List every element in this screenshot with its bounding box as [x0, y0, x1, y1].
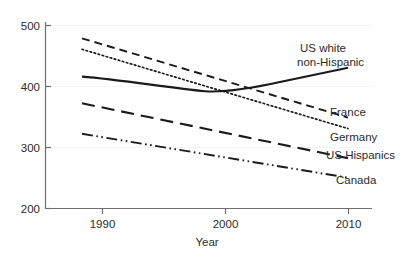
chart-figure: 500 400 300 200 1990 2000 2010 Year US w… — [0, 0, 410, 262]
series-label-us-white-line1: US white — [300, 42, 346, 54]
series-line-canada — [82, 134, 348, 178]
x-tick-label-2010: 2010 — [336, 218, 362, 230]
series-label-us-white-line2: non-Hispanic — [297, 56, 364, 68]
line-chart: 500 400 300 200 1990 2000 2010 Year US w… — [0, 0, 410, 262]
series-label-france: France — [330, 106, 366, 118]
x-axis-title: Year — [195, 236, 218, 248]
y-tick-label-200: 200 — [21, 203, 40, 215]
y-tick-label-400: 400 — [21, 81, 40, 93]
series-label-germany: Germany — [330, 131, 378, 143]
x-tick-label-2000: 2000 — [213, 218, 239, 230]
series-line-us-hispanics — [82, 103, 348, 158]
series-label-canada: Canada — [336, 174, 377, 186]
y-tick-label-300: 300 — [21, 142, 40, 154]
series-label-us-hispanics: US Hispanics — [326, 149, 395, 161]
x-tick-label-1990: 1990 — [90, 218, 116, 230]
series-line-us-white-non-hispanic — [82, 68, 348, 92]
y-tick-label-500: 500 — [21, 20, 40, 32]
